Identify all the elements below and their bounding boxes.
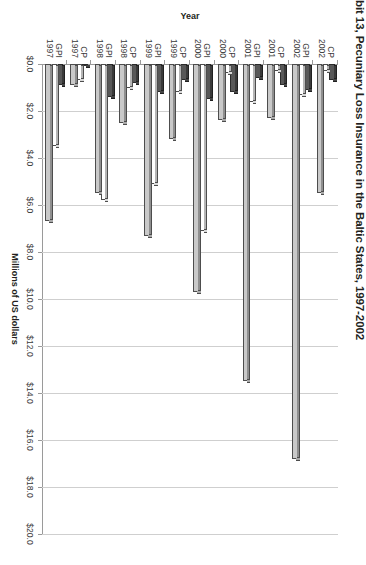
bar-top-face [204, 65, 207, 230]
bar-top-face [260, 65, 263, 77]
category-label-line: GPI [252, 2, 261, 58]
bar-side-face [228, 72, 232, 75]
bar-top-face [173, 65, 176, 138]
bar-top-face [210, 65, 213, 98]
bar-side-face [179, 91, 183, 94]
category-label-line: CP [227, 2, 236, 58]
bar-top-face [303, 65, 306, 94]
bar-top-face [149, 65, 152, 235]
category-label: CP2001 [267, 2, 285, 58]
bar-side-face [86, 65, 90, 68]
bar-top-face [284, 65, 287, 84]
bar [243, 64, 249, 381]
gridline [42, 487, 338, 488]
bar-top-face [56, 65, 59, 145]
bar-top-face [161, 65, 164, 91]
category-label-line: CP [128, 2, 137, 58]
bar-side-face [160, 91, 164, 94]
value-axis-tick [38, 299, 42, 300]
bar-side-face [222, 119, 226, 122]
bar-top-face [247, 65, 250, 380]
value-axis-tick [38, 252, 42, 253]
category-label: CP2002 [317, 2, 335, 58]
category-label-line: 1999 [144, 2, 153, 58]
bar-side-face [247, 380, 251, 383]
category-label: GPI1999 [144, 2, 162, 58]
category-label-line: CP [79, 2, 88, 58]
bar [119, 64, 125, 123]
value-axis-tick [38, 205, 42, 206]
bar-top-face [124, 65, 127, 122]
bar-top-face [198, 65, 201, 291]
category-label-line: 1997 [45, 2, 54, 58]
value-axis-tick-label: $16.0 [25, 422, 35, 458]
category-axis-title: Year [180, 11, 199, 21]
bar-top-face [136, 65, 139, 82]
category-label-line: GPI [153, 2, 162, 58]
bar-side-face [278, 70, 282, 73]
category-axis-tick [312, 60, 313, 64]
category-label: GPI1997 [45, 2, 63, 58]
bar-side-face [197, 291, 201, 294]
bar [45, 64, 51, 221]
bar-top-face [112, 65, 115, 96]
bar [95, 64, 101, 193]
bar [292, 64, 298, 459]
value-axis-tick [38, 158, 42, 159]
bar-side-face [49, 220, 53, 223]
bar-side-face [111, 96, 115, 99]
bar-side-face [130, 87, 134, 90]
category-label-line: 1998 [95, 2, 104, 58]
bar [267, 64, 273, 118]
bar-side-face [204, 230, 208, 233]
value-axis-tick [38, 64, 42, 65]
bar-top-face [297, 65, 300, 458]
category-label-line: 1997 [70, 2, 79, 58]
value-axis-tick [38, 346, 42, 347]
bar-top-face [235, 65, 238, 91]
bar [169, 64, 175, 139]
category-label: GPI1998 [95, 2, 113, 58]
category-label-line: GPI [54, 2, 63, 58]
bar [70, 64, 76, 85]
value-axis-tick [38, 534, 42, 535]
bar-side-face [173, 138, 177, 141]
category-axis-tick [115, 60, 116, 64]
bar-top-face [179, 65, 182, 91]
category-axis-tick [238, 60, 239, 64]
bar-side-face [136, 82, 140, 85]
plot-area: GPI1997CP1997GPI1998CP1998GPI1999CP1999G… [42, 64, 338, 534]
value-axis-tick-label: $12.0 [25, 328, 35, 364]
bar-side-face [271, 117, 275, 120]
bar-side-face [99, 192, 103, 195]
bar-side-face [308, 89, 312, 92]
category-axis-tick [214, 60, 215, 64]
bar-top-face [62, 65, 65, 84]
bar-side-face [148, 235, 152, 238]
category-label-line: 2001 [243, 2, 252, 58]
category-label-line: 1998 [119, 2, 128, 58]
value-axis-tick-label: $18.0 [25, 469, 35, 505]
value-axis-tick-label: $14.0 [25, 375, 35, 411]
value-axis-title: Millions of US dollars [10, 249, 20, 349]
bar-side-face [154, 183, 158, 186]
category-label: GPI2001 [243, 2, 261, 58]
value-axis-tick-label: $20.0 [25, 516, 35, 552]
category-label-line: 2002 [292, 2, 301, 58]
bar-top-face [309, 65, 312, 89]
bar-side-face [105, 199, 109, 202]
bar-side-face [62, 84, 66, 87]
category-axis-tick [189, 60, 190, 64]
category-label-line: CP [276, 2, 285, 58]
bar-top-face [50, 65, 53, 220]
bar-top-face [99, 65, 102, 192]
value-axis-tick-label: $10.0 [25, 281, 35, 317]
category-label-line: 1999 [169, 2, 178, 58]
value-axis-tick-label: $0.0 [25, 46, 35, 82]
bar-top-face [81, 65, 84, 79]
bar [218, 64, 224, 120]
category-label-line: GPI [202, 2, 211, 58]
category-label: CP1998 [119, 2, 137, 58]
bar-top-face [272, 65, 275, 117]
